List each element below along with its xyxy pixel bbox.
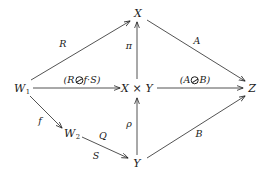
edge-label-a: A [194,36,201,46]
edge-label-f: f [38,116,42,126]
edge-label-r-tensor-fs-close: f·S) [83,74,100,85]
edge-label-a-tensor-b-open: (A [180,74,191,85]
node-x-times-y: X × Y [121,83,153,94]
node-x: X [134,8,142,19]
commutative-diagram: W1 W2 X X × Y Y Z R (Rf·S) f Q S π ρ A (… [0,0,273,176]
node-w2: W2 [64,128,80,139]
circled-backslash-icon [75,77,83,85]
edge-label-a-tensor-b: (AB) [180,75,211,85]
edge-label-a-tensor-b-close: B) [199,74,210,85]
edge-label-rho: ρ [126,119,132,129]
edge-x-to-z [147,20,245,81]
edge-w1-to-w2 [30,96,62,128]
edge-w1-to-x [31,21,130,80]
edge-label-q: Q [99,131,107,141]
edge-label-b: B [195,129,202,139]
edge-label-pi: π [126,41,132,51]
edge-label-r-tensor-fs: (Rf·S) [63,75,100,85]
node-w1: W1 [14,83,30,94]
edge-y-to-z [147,96,245,158]
circled-backslash-icon [191,77,199,85]
node-y: Y [133,158,140,169]
node-z: Z [248,83,256,94]
edge-label-r: R [59,39,66,49]
edge-label-s: S [93,151,100,161]
edge-label-r-tensor-fs-open: (R [63,74,74,85]
